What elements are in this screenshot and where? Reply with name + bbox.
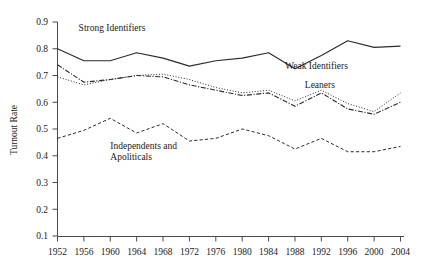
series-line-strong-identifiers [58, 41, 401, 69]
x-axis-group: 1952195619601964196819721976198019841988… [48, 237, 410, 258]
x-tick-label: 1984 [259, 247, 278, 257]
y-tick-label: 0.8 [36, 44, 48, 54]
y-tick-label: 0.7 [36, 71, 48, 81]
y-tick-label: 0.9 [36, 17, 48, 27]
x-tick-labels: 1952195619601964196819721976198019841988… [48, 247, 410, 257]
x-tick-label: 1992 [312, 247, 331, 257]
x-tick-label: 1972 [180, 247, 199, 257]
series-line-independents-and-apoliticals [58, 118, 401, 151]
turnout-rate-line-chart: 0.90.80.70.60.50.40.30.20.1 Turnout Rate… [0, 0, 423, 274]
x-tick-label: 1952 [48, 247, 67, 257]
x-tick-label: 2004 [391, 247, 410, 257]
y-tick-label: 0.1 [36, 231, 48, 241]
y-tick-label: 0.4 [36, 151, 48, 161]
x-tick-marks [58, 237, 401, 242]
series-annotations: Strong IdentifiersWeak IdentifiersLeaner… [79, 23, 349, 161]
annotation-label: Weak Identifiers [285, 61, 348, 71]
x-tick-label: 1956 [74, 247, 93, 257]
y-tick-label: 0.5 [36, 124, 48, 134]
y-axis-group: 0.90.80.70.60.50.40.30.20.1 Turnout Rate [9, 17, 58, 241]
annotation-label: Strong Identifiers [79, 23, 146, 33]
y-tick-marks [53, 22, 58, 236]
x-tick-label: 1968 [154, 247, 173, 257]
x-tick-label: 1960 [101, 247, 120, 257]
annotation-label: Leaners [305, 80, 335, 90]
x-tick-label: 1996 [338, 247, 357, 257]
x-tick-label: 1980 [233, 247, 252, 257]
y-tick-labels: 0.90.80.70.60.50.40.30.20.1 [36, 17, 48, 241]
series-line-leaners [58, 65, 401, 114]
x-tick-label: 1988 [285, 247, 304, 257]
y-tick-label: 0.6 [36, 98, 48, 108]
y-tick-label: 0.3 [36, 178, 48, 188]
annotation-label: Apoliticals [110, 152, 152, 162]
x-tick-label: 2000 [365, 247, 384, 257]
y-axis-title: Turnout Rate [9, 105, 19, 155]
x-tick-label: 1976 [206, 247, 225, 257]
chart-canvas: 0.90.80.70.60.50.40.30.20.1 Turnout Rate… [0, 0, 423, 274]
x-tick-label: 1964 [127, 247, 146, 257]
y-tick-label: 0.2 [36, 205, 48, 215]
annotation-label: Independents and [110, 141, 177, 151]
series-lines [58, 41, 401, 152]
